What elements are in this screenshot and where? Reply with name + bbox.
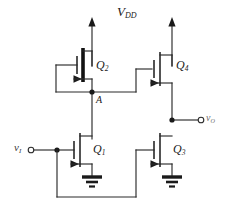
input-net (28, 147, 136, 197)
transistor-label-q3: Q3 (173, 143, 185, 156)
transistor-label-q4: Q4 (176, 59, 188, 72)
node-a-label: A (96, 95, 102, 105)
ground-right (162, 177, 182, 187)
input-label: vI (14, 142, 21, 155)
schematic-canvas (0, 0, 225, 217)
transistor-q1 (57, 133, 92, 176)
ground-left (82, 177, 102, 187)
transistor-q2 (56, 48, 92, 92)
transistor-label-q1: Q1 (93, 143, 105, 156)
output-label: vO (206, 113, 215, 124)
transistor-q4 (151, 52, 173, 120)
output-junction-dot (169, 117, 174, 122)
output-terminal-icon[interactable] (198, 117, 204, 123)
transistor-q3 (136, 133, 172, 197)
input-terminal-icon[interactable] (28, 147, 34, 153)
supply-label: VDD (117, 5, 137, 20)
vdd-right-arrow-icon (168, 17, 175, 27)
vdd-left-arrow-icon (88, 17, 95, 27)
circuit-schematic: VDD Q2 Q4 A vO vI Q1 Q3 (0, 0, 225, 217)
output-net (169, 117, 203, 123)
node-a-junction-dot (89, 89, 94, 94)
transistor-label-q2: Q2 (96, 59, 108, 72)
